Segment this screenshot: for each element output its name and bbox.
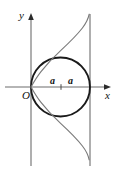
- segment-label-a-left: a: [50, 76, 55, 86]
- figure-canvas: [0, 0, 119, 173]
- x-axis-label: x: [105, 90, 110, 101]
- y-axis-label: y: [19, 10, 24, 21]
- cissoid-upper-branch: [31, 14, 89, 87]
- cissoid-lower-branch: [31, 87, 89, 160]
- segment-label-a-right: a: [68, 76, 73, 86]
- math-figure: y x O a a: [0, 0, 119, 173]
- origin-label: O: [22, 90, 30, 101]
- y-axis-arrowhead: [28, 13, 34, 20]
